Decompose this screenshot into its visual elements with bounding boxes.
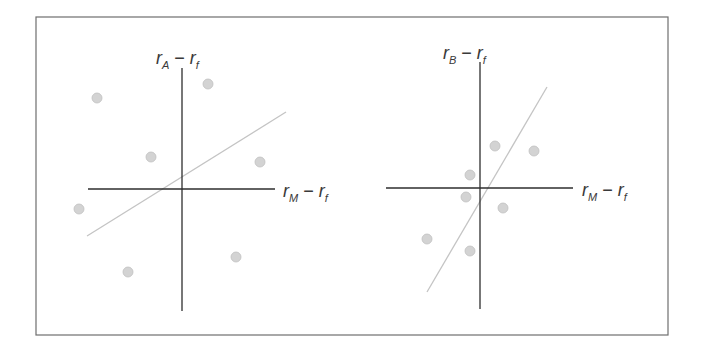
x-axis-label-b: rM − rf <box>582 180 628 203</box>
regression-line-a <box>87 112 286 236</box>
scatter-panel-stock-b: rB − rfrM − rf <box>386 43 628 309</box>
data-point <box>490 141 500 151</box>
regression-line-b <box>427 87 547 292</box>
data-point <box>498 203 508 213</box>
data-point <box>231 252 241 262</box>
data-point <box>146 152 156 162</box>
data-point <box>422 234 432 244</box>
data-point <box>203 79 213 89</box>
data-point <box>465 170 475 180</box>
y-axis-label-a: rA − rf <box>156 48 200 71</box>
data-point <box>92 93 102 103</box>
data-point <box>465 246 475 256</box>
data-point <box>123 267 133 277</box>
characteristic-lines-figure: rA − rfrM − rf rB − rfrM − rf <box>0 0 702 353</box>
data-point <box>74 204 84 214</box>
y-axis-label-b: rB − rf <box>443 43 487 66</box>
data-point <box>255 157 265 167</box>
figure-frame <box>36 17 668 335</box>
x-axis-label-a: rM − rf <box>283 181 329 204</box>
data-point <box>529 146 539 156</box>
scatter-panel-stock-a: rA − rfrM − rf <box>74 48 329 311</box>
data-point <box>461 192 471 202</box>
